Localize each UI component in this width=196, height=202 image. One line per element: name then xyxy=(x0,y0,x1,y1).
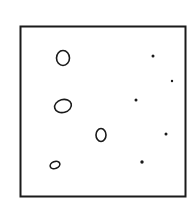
dot-group xyxy=(135,55,174,164)
square-frame xyxy=(21,27,186,197)
diagram-canvas xyxy=(0,0,196,202)
dot-3 xyxy=(135,99,138,102)
ring-3 xyxy=(96,129,106,142)
dot-2 xyxy=(171,80,173,82)
dot-1 xyxy=(152,55,155,58)
ring-1 xyxy=(57,51,70,66)
dot-4 xyxy=(165,133,168,136)
dot-5 xyxy=(140,160,143,163)
ring-4 xyxy=(49,160,61,170)
ring-2 xyxy=(53,98,73,115)
ring-group xyxy=(49,51,106,170)
